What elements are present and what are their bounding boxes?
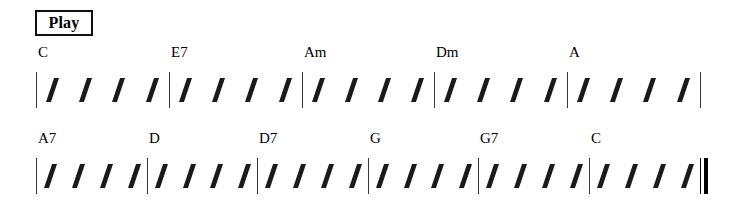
beat-slash: [100, 164, 113, 188]
beat-slash: [597, 164, 610, 188]
beat-slash: [79, 78, 92, 102]
beat-slash: [183, 164, 196, 188]
beat-slash: [570, 164, 583, 188]
beat-slash: [44, 164, 57, 188]
barline: [589, 158, 590, 194]
barline: [169, 72, 170, 108]
beat-slash: [681, 164, 694, 188]
beat-slash: [514, 164, 527, 188]
chord-label: D: [149, 128, 160, 148]
beat-slash: [444, 78, 457, 102]
final-barline-thick: [704, 158, 708, 194]
beat-slash: [486, 164, 499, 188]
play-button-label: Play: [48, 15, 79, 31]
beat-slash: [210, 164, 223, 188]
chord-label: Dm: [436, 42, 459, 62]
beat-slash: [179, 78, 192, 102]
beat-slash: [312, 78, 325, 102]
beat-slash: [577, 78, 590, 102]
barline: [700, 72, 701, 108]
barline: [257, 158, 258, 194]
beat-slash: [653, 164, 666, 188]
beat-slash: [510, 78, 523, 102]
beat-slash: [212, 78, 225, 102]
chord-label: G7: [480, 128, 498, 148]
beat-slash: [345, 78, 358, 102]
beat-slash: [431, 164, 444, 188]
beat-slash: [477, 78, 490, 102]
beat-slash: [404, 164, 417, 188]
barline: [434, 72, 435, 108]
beat-slash: [46, 78, 59, 102]
beat-slash: [610, 78, 623, 102]
beat-slash: [146, 78, 159, 102]
chord-label: Am: [304, 42, 327, 62]
beat-slash: [411, 78, 424, 102]
chord-staff-row: A7DD7GG7C: [0, 128, 736, 198]
beat-slash: [238, 164, 251, 188]
barline: [368, 158, 369, 194]
chord-staff-row: CE7AmDmA: [0, 42, 736, 112]
chord-label-layer: CE7AmDmA: [0, 42, 736, 66]
beat-slash: [459, 164, 472, 188]
barline: [36, 72, 37, 108]
chord-label: C: [38, 42, 48, 62]
beat-slash: [279, 78, 292, 102]
beat-slash: [245, 78, 258, 102]
beat-slash: [378, 78, 391, 102]
beat-slash: [293, 164, 306, 188]
beat-slash: [128, 164, 141, 188]
measure-bar-layer: [0, 68, 736, 110]
barline: [567, 72, 568, 108]
barline: [478, 158, 479, 194]
beat-slash: [265, 164, 278, 188]
chord-label: A7: [38, 128, 56, 148]
beat-slash: [544, 78, 557, 102]
beat-slash: [72, 164, 85, 188]
final-barline-thin: [700, 158, 701, 194]
beat-slash: [155, 164, 168, 188]
beat-slash: [321, 164, 334, 188]
barline: [302, 72, 303, 108]
beat-slash: [643, 78, 656, 102]
barline: [147, 158, 148, 194]
chord-label: C: [591, 128, 601, 148]
beat-slash: [112, 78, 125, 102]
measure-bar-layer: [0, 154, 736, 196]
chord-label: E7: [171, 42, 188, 62]
chord-label-layer: A7DD7GG7C: [0, 128, 736, 152]
beat-slash: [542, 164, 555, 188]
chord-label: D7: [259, 128, 277, 148]
chord-label: A: [569, 42, 580, 62]
beat-slash: [349, 164, 362, 188]
beat-slash: [625, 164, 638, 188]
barline: [36, 158, 37, 194]
play-button[interactable]: Play: [35, 10, 93, 36]
chord-label: G: [370, 128, 381, 148]
beat-slash: [677, 78, 690, 102]
beat-slash: [376, 164, 389, 188]
